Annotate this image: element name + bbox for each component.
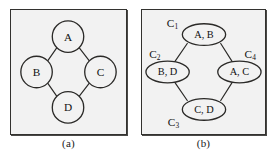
edge-c4-c3 (221, 82, 233, 101)
clique-c2-label: B, D (158, 66, 178, 77)
edge-a-b (48, 48, 57, 61)
node-d-label: D (64, 101, 72, 113)
panel-b-clique-tree: A, B C1 B, D C2 A, C C4 C, D C3 (142, 10, 265, 134)
clique-c4-name: C4 (245, 48, 257, 61)
clique-c2-name: C2 (149, 48, 161, 61)
panel-a-graph: A B C D (11, 10, 126, 134)
caption-panel-a: (a) (10, 137, 127, 149)
clique-c1-name: C1 (167, 17, 179, 30)
node-b-label: B (33, 66, 41, 78)
clique-c2-name-subscript: 2 (157, 53, 161, 62)
clique-c3-name-subscript: 3 (175, 121, 179, 130)
edge-c1-c4 (221, 43, 233, 62)
clique-c1-name-base: C (167, 17, 175, 29)
node-a-label: A (64, 31, 73, 43)
clique-c1-name-subscript: 1 (174, 21, 178, 30)
clique-c3-name-base: C (168, 116, 176, 128)
clique-c3-label: C, D (194, 104, 214, 115)
figure-root: A B C D A, B C1 B (0, 0, 273, 155)
clique-c3-name: C3 (168, 116, 180, 129)
panel-b: A, B C1 B, D C2 A, C C4 C, D C3 (141, 9, 266, 135)
clique-c4-label: A, C (230, 66, 250, 77)
clique-c2-name-base: C (149, 48, 157, 60)
clique-c4-name-subscript: 4 (252, 53, 256, 62)
clique-c1-label: A, B (194, 29, 214, 40)
edge-c1-c2 (174, 43, 187, 62)
edge-a-c (79, 48, 89, 61)
clique-c4-name-base: C (245, 48, 253, 60)
edge-c2-c3 (174, 82, 187, 101)
caption-panel-b: (b) (141, 137, 266, 149)
edge-b-d (48, 83, 57, 96)
edge-c-d (79, 83, 89, 96)
panel-a: A B C D (10, 9, 127, 135)
node-c-label: C (97, 66, 105, 78)
